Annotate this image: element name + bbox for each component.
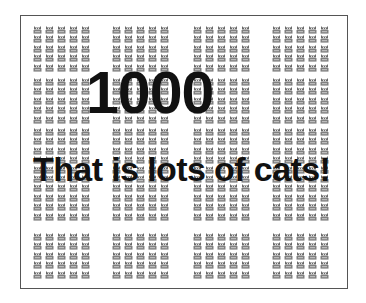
cat-icon (33, 242, 42, 250)
cat-icon (160, 271, 169, 279)
cat-icon (136, 194, 145, 202)
cat-icon (112, 213, 121, 221)
cat-icon (136, 26, 145, 34)
cat-icon (296, 213, 305, 221)
cat-icon (241, 45, 250, 53)
cat-icon (57, 233, 66, 241)
cat-icon (33, 26, 42, 34)
cat-icon (160, 242, 169, 250)
cat-icon (57, 97, 66, 105)
cat-icon (241, 194, 250, 202)
cat-icon (217, 271, 226, 279)
cat-icon (45, 45, 54, 53)
cat-icon (205, 261, 214, 269)
cat-icon (308, 203, 317, 211)
cat-icon (33, 45, 42, 53)
cat-icon (205, 35, 214, 43)
cat-icon (296, 45, 305, 53)
cat-icon (205, 137, 214, 145)
cat-icon (33, 54, 42, 62)
cat-icon (57, 87, 66, 95)
cat-icon (217, 242, 226, 250)
cat-icon (112, 26, 121, 34)
cat-icon (241, 97, 250, 105)
cat-icon (81, 203, 90, 211)
cat-icon (69, 261, 78, 269)
cat-icon (296, 261, 305, 269)
cat-icon (193, 26, 202, 34)
cat-icon (112, 242, 121, 250)
cat-icon (205, 26, 214, 34)
cat-icon (296, 26, 305, 34)
cat-icon (124, 26, 133, 34)
cat-icon (69, 78, 78, 86)
cat-icon (124, 271, 133, 279)
cat-icon (320, 64, 329, 72)
cat-icon (284, 64, 293, 72)
cat-icon (124, 128, 133, 136)
cat-icon (33, 128, 42, 136)
cat-icon (217, 194, 226, 202)
cat-icon (81, 252, 90, 260)
cat-icon (81, 26, 90, 34)
cat-icon (124, 194, 133, 202)
cat-icon (217, 203, 226, 211)
cat-icon (148, 35, 157, 43)
cat-icon (193, 45, 202, 53)
cat-icon (160, 45, 169, 53)
cat-icon (160, 252, 169, 260)
cat-icon (45, 97, 54, 105)
cat-icon (124, 35, 133, 43)
cat-icon (308, 87, 317, 95)
cat-icon (148, 213, 157, 221)
cat-icon (308, 213, 317, 221)
cat-icon (229, 116, 238, 124)
cat-icon (33, 97, 42, 105)
cat-icon (241, 116, 250, 124)
cat-icon (45, 242, 54, 250)
cat-icon (296, 252, 305, 260)
cat-icon (81, 233, 90, 241)
cat-icon (33, 213, 42, 221)
cat-icon (112, 271, 121, 279)
cat-icon (112, 203, 121, 211)
cat-icon (284, 261, 293, 269)
cat-icon (57, 261, 66, 269)
cat-icon (205, 45, 214, 53)
cat-icon (112, 128, 121, 136)
cat-icon (229, 233, 238, 241)
cat-icon (217, 97, 226, 105)
cat-icon (272, 233, 281, 241)
cat-icon (320, 26, 329, 34)
cat-icon (320, 194, 329, 202)
cat-icon (241, 261, 250, 269)
cat-icon (69, 45, 78, 53)
cat-icon (69, 87, 78, 95)
cat-icon (33, 116, 42, 124)
cat-icon (241, 54, 250, 62)
cat-icon (284, 106, 293, 114)
cat-icon (284, 137, 293, 145)
cat-icon (124, 252, 133, 260)
cat-icon (308, 252, 317, 260)
cat-icon (45, 87, 54, 95)
cat-icon (112, 261, 121, 269)
cat-icon (148, 203, 157, 211)
cat-icon (272, 128, 281, 136)
cat-icon (272, 64, 281, 72)
cat-icon (284, 233, 293, 241)
cat-icon (112, 194, 121, 202)
cat-icon (272, 271, 281, 279)
cat-icon (284, 252, 293, 260)
cat-icon (112, 137, 121, 145)
cat-icon (33, 87, 42, 95)
cat-icon (296, 116, 305, 124)
cat-icon (160, 213, 169, 221)
cat-icon (193, 242, 202, 250)
cat-icon (45, 35, 54, 43)
cat-icon (33, 203, 42, 211)
cat-icon (320, 97, 329, 105)
cat-icon (296, 35, 305, 43)
cat-icon (136, 35, 145, 43)
cat-icon (33, 64, 42, 72)
